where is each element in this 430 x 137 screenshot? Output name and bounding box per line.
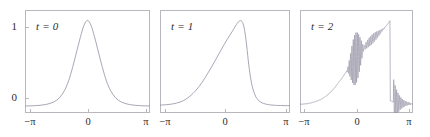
panel-label-t0: t = 0 (36, 21, 58, 32)
ytick-mark (25, 27, 29, 28)
xtick-label-t0-zero: 0 (85, 117, 90, 128)
figure-canvas: t = 0 1 0 −π 0 π t = 1 −π 0 π t = 2 −π 0… (0, 0, 430, 137)
xtick-label-t2-neg-pi: −π (298, 117, 309, 128)
ytick-mark (25, 98, 29, 99)
xtick-mark (357, 109, 358, 113)
xtick-label-t1-neg-pi: −π (159, 117, 170, 128)
xtick-mark (88, 109, 89, 113)
xtick-label-t0-neg-pi: −π (24, 117, 35, 128)
series-path (25, 20, 150, 106)
xtick-mark (286, 109, 287, 113)
xtick-label-t2-pi: π (406, 117, 411, 128)
xtick-label-t0-pi: π (143, 117, 148, 128)
xtick-label-t1-zero: 0 (222, 117, 227, 128)
xtick-mark (409, 109, 410, 113)
ytick-label-one: 1 (3, 21, 17, 32)
xtick-label-t2-zero: 0 (354, 117, 359, 128)
ytick-label-zero: 0 (3, 92, 17, 103)
xtick-mark (30, 109, 31, 113)
series-path (300, 21, 413, 113)
xtick-mark (165, 109, 166, 113)
xtick-label-t1-pi: π (283, 117, 288, 128)
panel-label-t2: t = 2 (311, 21, 333, 32)
xtick-mark (304, 109, 305, 113)
panel-label-t1: t = 1 (171, 21, 193, 32)
xtick-mark (225, 109, 226, 113)
series-path (160, 21, 290, 106)
xtick-mark (146, 109, 147, 113)
